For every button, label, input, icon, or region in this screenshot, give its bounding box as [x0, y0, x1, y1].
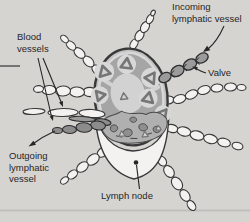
outgoing-arrow: [29, 131, 56, 147]
valve-arrow: [192, 67, 206, 74]
lymph-node-diagram: Incoming lymphatic vessel Blood vessels …: [0, 0, 250, 222]
lymph-node-pointer-dot: [134, 160, 139, 165]
lymphatic-vessel-top: [128, 9, 156, 50]
valve-label: Valve: [208, 67, 231, 79]
lymphatic-vessel-right-lower: [165, 123, 243, 150]
outgoing-lymphatic-vessel-label: Outgoing lymphatic vessel: [9, 150, 59, 185]
lymphatic-vessel-right-upper: [162, 83, 247, 105]
incoming-lymphatic-vessel-label: Incoming lymphatic vessel: [172, 1, 250, 24]
lymphatic-vessel-left: [33, 85, 97, 97]
lymphatic-vessel-bottom-right: [155, 154, 197, 212]
lymph-node-label: Lymph node: [101, 190, 153, 202]
outgoing-lymphatic-vessel: [23, 108, 105, 118]
incoming-arrow: [203, 26, 224, 52]
incoming-lymphatic-vessel: [157, 51, 210, 85]
blood-vessels-label: Blood vessels: [17, 31, 59, 54]
